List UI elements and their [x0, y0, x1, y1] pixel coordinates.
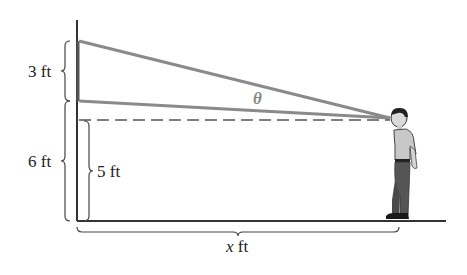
brace-x-ft [77, 227, 399, 236]
label-6ft: 6 ft [28, 152, 51, 171]
brace-5ft [84, 121, 93, 221]
brace-3ft [61, 41, 70, 101]
top-sight-line [79, 41, 390, 118]
label-3ft: 3 ft [28, 62, 51, 81]
person-figure [386, 108, 417, 219]
label-5ft: 5 ft [97, 162, 120, 181]
bottom-sight-line [79, 101, 390, 118]
angle-theta-label: θ [253, 89, 262, 108]
brace-6ft [61, 101, 70, 221]
viewing-angle-diagram: 3 ft 6 ft 5 ft x ft θ [0, 0, 467, 275]
label-x-ft: x ft [225, 237, 248, 256]
